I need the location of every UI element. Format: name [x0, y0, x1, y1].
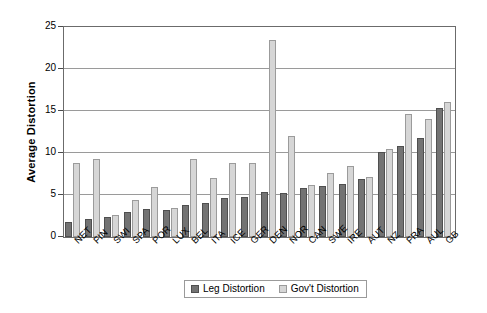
bar-group: [318, 27, 338, 237]
bar-group: [338, 27, 358, 237]
bar-leg-distortion: [397, 146, 404, 237]
bars-layer: [64, 27, 455, 237]
bar-govt-distortion: [249, 163, 256, 237]
y-axis-tick-label: 0: [30, 231, 56, 241]
legend-item-leg-distortion: Leg Distortion: [191, 283, 265, 294]
bar-group: [416, 27, 436, 237]
bar-govt-distortion: [327, 173, 334, 237]
bar-govt-distortion: [93, 159, 100, 237]
y-axis-tick-label: 20: [30, 63, 56, 73]
legend-swatch-icon: [279, 285, 287, 293]
legend-label: Leg Distortion: [203, 283, 265, 294]
bar-govt-distortion: [386, 149, 393, 237]
bar-leg-distortion: [436, 108, 443, 237]
bar-group: [201, 27, 221, 237]
bar-leg-distortion: [417, 138, 424, 237]
legend-label: Gov't Distortion: [291, 283, 359, 294]
plot-area: [63, 26, 456, 238]
bar-group: [84, 27, 104, 237]
bar-govt-distortion: [347, 166, 354, 237]
bar-group: [435, 27, 455, 237]
x-axis-tick-labels: NETFINSWISPAPORLUXBELITAICEGERDENNORCANS…: [63, 238, 454, 284]
bar-chart: Average Distortion 0510152025 NETFINSWIS…: [0, 0, 487, 313]
bar-group: [240, 27, 260, 237]
bar-govt-distortion: [210, 178, 217, 237]
bar-govt-distortion: [190, 159, 197, 237]
bar-govt-distortion: [366, 177, 373, 237]
legend-swatch-icon: [191, 285, 199, 293]
y-axis-tick-label: 25: [30, 21, 56, 31]
bar-group: [162, 27, 182, 237]
bar-group: [357, 27, 377, 237]
bar-group: [181, 27, 201, 237]
bar-leg-distortion: [65, 222, 72, 237]
bar-govt-distortion: [229, 163, 236, 237]
bar-group: [279, 27, 299, 237]
bar-group: [64, 27, 84, 237]
bar-govt-distortion: [288, 136, 295, 237]
y-axis-tick-label: 5: [30, 189, 56, 199]
bar-group: [260, 27, 280, 237]
bar-govt-distortion: [269, 40, 276, 237]
bar-govt-distortion: [444, 102, 451, 237]
bar-group: [377, 27, 397, 237]
bar-group: [142, 27, 162, 237]
bar-govt-distortion: [425, 119, 432, 237]
bar-group: [396, 27, 416, 237]
bar-group: [103, 27, 123, 237]
bar-govt-distortion: [73, 163, 80, 237]
y-axis-tick-label: 10: [30, 147, 56, 157]
bar-govt-distortion: [405, 114, 412, 237]
bar-group: [299, 27, 319, 237]
chart-legend: Leg Distortion Gov't Distortion: [184, 280, 367, 298]
bar-group: [123, 27, 143, 237]
bar-group: [220, 27, 240, 237]
legend-item-govt-distortion: Gov't Distortion: [279, 283, 359, 294]
y-axis-tick-label: 15: [30, 105, 56, 115]
